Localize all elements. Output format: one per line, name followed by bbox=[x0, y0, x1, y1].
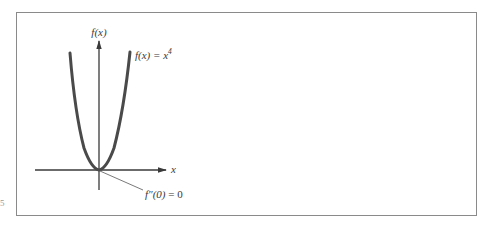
annotation-rhs: = 0 bbox=[165, 188, 183, 200]
curve-label-exponent: 4 bbox=[168, 47, 172, 56]
figure-frame bbox=[17, 13, 477, 216]
curve-label-lhs: f(x) = x bbox=[135, 49, 168, 62]
graph-svg: f(x) x f(x) = x4 f″(0) = 0 bbox=[0, 0, 493, 228]
page-edge-mark: 5 bbox=[0, 198, 5, 208]
annotation-lhs: f″(0) bbox=[145, 188, 166, 201]
annotation-leader-line bbox=[100, 171, 143, 190]
x-axis-label: x bbox=[170, 163, 176, 175]
curve-x-fourth bbox=[70, 52, 130, 170]
y-axis-label: f(x) bbox=[91, 26, 107, 39]
curve-label: f(x) = x4 bbox=[135, 47, 172, 62]
second-derivative-annotation: f″(0) = 0 bbox=[145, 188, 183, 201]
figure: 5 f(x) x f(x) = x4 f″(0) = 0 bbox=[0, 0, 493, 228]
